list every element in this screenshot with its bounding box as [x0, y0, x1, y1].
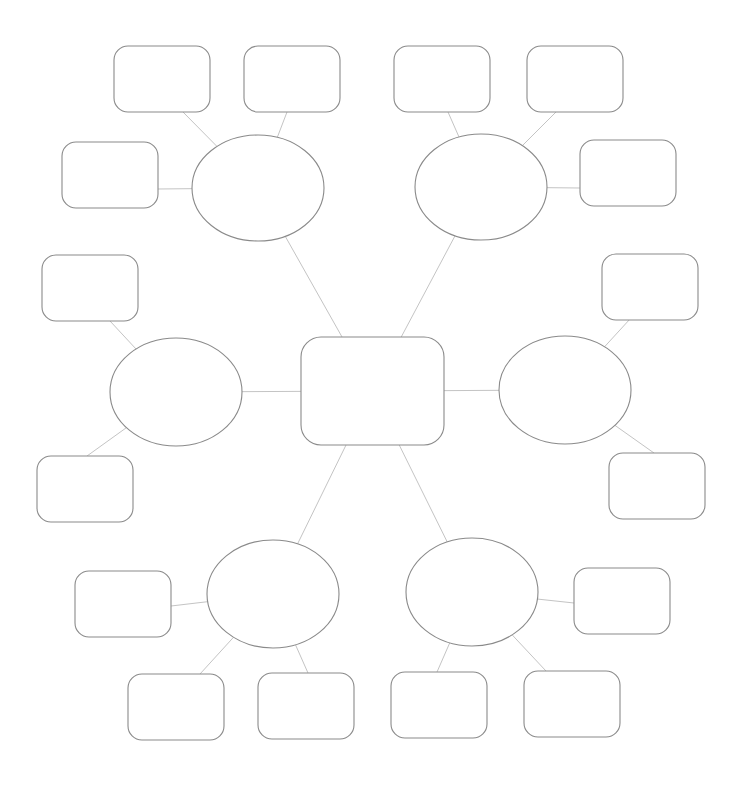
- connector-center-branch-bottom-left: [298, 445, 346, 544]
- mind-map-canvas: [0, 0, 750, 789]
- connector-leaf-tr-1: [448, 112, 459, 137]
- leaf-r-2-node[interactable]: [609, 453, 705, 519]
- leaf-br-3-node[interactable]: [524, 671, 620, 737]
- leaf-bl-2-node[interactable]: [128, 674, 224, 740]
- connector-leaf-l-1: [110, 321, 136, 349]
- branch-right-node[interactable]: [499, 336, 631, 444]
- connector-center-branch-bottom-right: [399, 445, 447, 542]
- central-topic-node[interactable]: [301, 337, 444, 445]
- leaf-tl-1-node[interactable]: [114, 46, 210, 112]
- leaf-r-1-node[interactable]: [602, 254, 698, 320]
- connector-leaf-r-2: [615, 425, 654, 453]
- leaf-l-2-node[interactable]: [37, 456, 133, 522]
- leaf-tr-3-node[interactable]: [580, 140, 676, 206]
- connector-leaf-r-1: [605, 319, 630, 347]
- connector-leaf-l-2: [87, 428, 126, 456]
- leaf-tl-2-node[interactable]: [244, 46, 340, 112]
- connector-center-branch-top-left: [285, 236, 342, 337]
- leaf-l-1-node[interactable]: [42, 255, 138, 321]
- leaf-tr-1-node[interactable]: [394, 46, 490, 112]
- shapes: [37, 46, 705, 740]
- connector-leaf-br-1: [537, 599, 574, 603]
- connector-leaf-br-2: [437, 643, 450, 672]
- leaf-bl-1-node[interactable]: [75, 571, 171, 637]
- connector-leaf-bl-1: [171, 602, 208, 606]
- branch-top-left-node[interactable]: [192, 135, 324, 241]
- branch-bottom-right-node[interactable]: [406, 538, 538, 646]
- leaf-bl-3-node[interactable]: [258, 673, 354, 739]
- connector-center-branch-top-right: [401, 236, 455, 337]
- leaf-tl-3-node[interactable]: [62, 142, 158, 208]
- connector-leaf-tl-2: [277, 112, 287, 137]
- branch-left-node[interactable]: [110, 338, 242, 446]
- leaf-tr-2-node[interactable]: [527, 46, 623, 112]
- leaf-br-2-node[interactable]: [391, 672, 487, 738]
- connector-leaf-tr-2: [522, 112, 556, 146]
- leaf-br-1-node[interactable]: [574, 568, 670, 634]
- connector-leaf-bl-3: [295, 645, 308, 673]
- branch-bottom-left-node[interactable]: [207, 540, 339, 648]
- branch-top-right-node[interactable]: [415, 134, 547, 240]
- connector-leaf-tl-1: [183, 112, 217, 146]
- connector-leaf-bl-2: [200, 637, 234, 674]
- connector-leaf-br-3: [512, 635, 546, 671]
